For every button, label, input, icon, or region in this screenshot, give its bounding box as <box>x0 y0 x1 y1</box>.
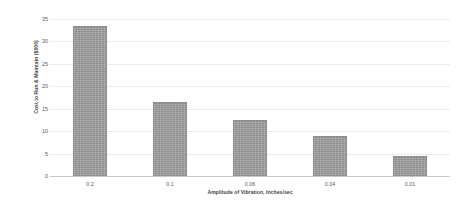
y-axis-tick-label: 0 <box>34 173 48 179</box>
bar <box>313 136 347 176</box>
bars-layer <box>50 19 450 176</box>
y-axis-tick-label: 25 <box>34 61 48 67</box>
y-axis-tick-label: 5 <box>34 151 48 157</box>
y-axis-tick-labels: 05101520253035 <box>34 14 48 178</box>
bar-chart: Cost to Run & Maintain ($000) 0510152025… <box>0 0 473 204</box>
y-axis-tick-label: 20 <box>34 83 48 89</box>
bar <box>153 102 187 176</box>
x-axis-title: Amplitude of Vibration, Inches/sec <box>50 188 450 196</box>
bar <box>233 120 267 176</box>
bar <box>73 26 107 176</box>
y-axis-tick-label: 10 <box>34 128 48 134</box>
y-axis-tick-label: 15 <box>34 106 48 112</box>
y-axis-tick-label: 35 <box>34 16 48 22</box>
y-axis-tick-label: 30 <box>34 38 48 44</box>
x-axis-line <box>50 176 450 177</box>
bar <box>393 156 427 176</box>
